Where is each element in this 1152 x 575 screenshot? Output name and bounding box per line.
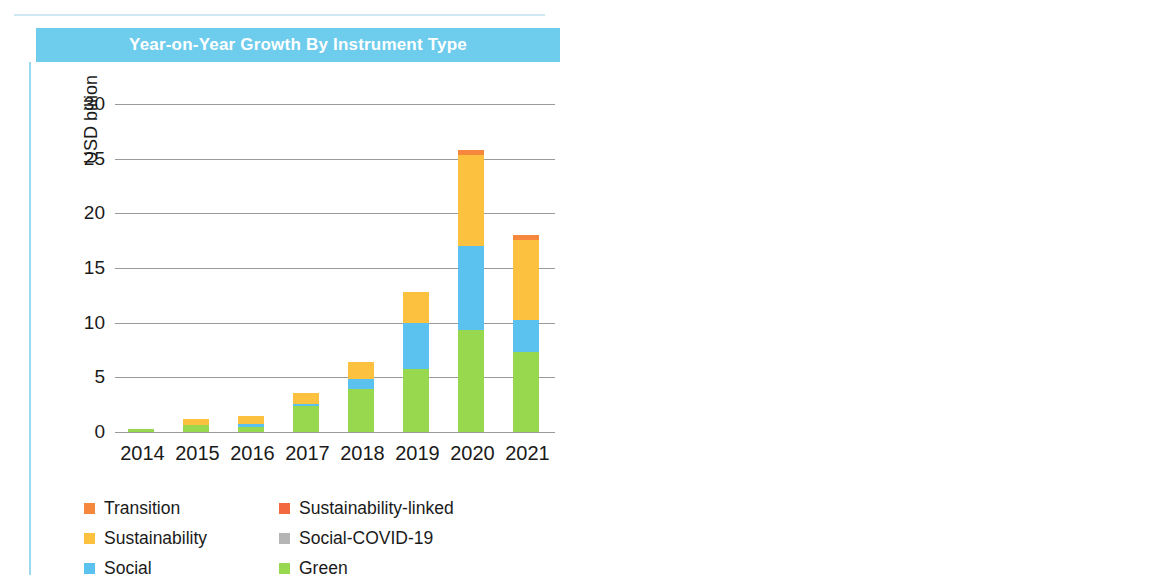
y-tick-label-10: 10 [45, 312, 105, 334]
bar-segment-2018-green [348, 389, 374, 432]
figure-root: Year-on-Year Growth By Instrument Type U… [0, 0, 1152, 575]
bar-group-2015 [170, 104, 225, 432]
bar-group-2017 [280, 104, 335, 432]
bar-legend-label: Transition [104, 498, 180, 519]
y-tick-label-15: 15 [45, 257, 105, 279]
legend-swatch-icon [279, 533, 290, 544]
bar-stack-2021[interactable] [513, 235, 539, 432]
bar-legend-item-social[interactable]: Social [84, 558, 279, 575]
pie-chart-panel: Currency AUD 1% EUR 15% USD 19% THB 0% J… [586, 14, 1152, 570]
bar-segment-2016-sustainability [238, 416, 264, 424]
x-tick-label-2014: 2014 [115, 442, 170, 465]
bar-segment-2019-green [403, 369, 429, 432]
bar-segment-2020-sustainability [458, 155, 484, 246]
legend-swatch-icon [279, 563, 290, 574]
bar-segment-2015-green [183, 425, 209, 432]
x-tick-label-2015: 2015 [170, 442, 225, 465]
x-tick-label-2021: 2021 [500, 442, 555, 465]
gridline-0 [115, 432, 555, 433]
bar-stack-2015[interactable] [183, 419, 209, 432]
bar-legend-label: Green [299, 558, 348, 575]
bar-group-2016 [225, 104, 280, 432]
x-tick-label-2017: 2017 [280, 442, 335, 465]
bar-stack-2014[interactable] [128, 429, 154, 432]
bar-segment-2019-social [403, 323, 429, 369]
bar-legend-label: Social-COVID-19 [299, 528, 433, 549]
bar-stack-2020[interactable] [458, 150, 484, 432]
bar-segment-2014-green [128, 429, 154, 432]
y-tick-label-5: 5 [45, 366, 105, 388]
bar-legend-item-green[interactable]: Green [279, 558, 554, 575]
x-tick-label-2018: 2018 [335, 442, 390, 465]
bar-legend-item-social-covid-19[interactable]: Social-COVID-19 [279, 528, 554, 549]
x-tick-label-2019: 2019 [390, 442, 445, 465]
bar-legend-item-sustainability-linked[interactable]: Sustainability-linked [279, 498, 554, 519]
bar-legend-label: Sustainability [104, 528, 207, 549]
bar-panel-left-rule [29, 62, 31, 575]
x-tick-label-2020: 2020 [445, 442, 500, 465]
bar-group-2019 [390, 104, 445, 432]
bar-stack-2016[interactable] [238, 416, 264, 432]
bar-plot-area: USD billion 051015202530 201420152016201… [115, 104, 555, 432]
bar-legend-label: Sustainability-linked [299, 498, 454, 519]
bar-chart-panel: Year-on-Year Growth By Instrument Type U… [14, 14, 560, 570]
bar-segment-2020-green [458, 330, 484, 432]
bar-segment-2021-social [513, 320, 539, 352]
bar-segment-2021-green [513, 352, 539, 432]
y-tick-label-30: 30 [45, 93, 105, 115]
bar-stack-2017[interactable] [293, 393, 319, 432]
bar-group-2014 [115, 104, 170, 432]
bar-legend-item-transition[interactable]: Transition [84, 498, 279, 519]
legend-swatch-icon [279, 503, 290, 514]
y-tick-label-0: 0 [45, 421, 105, 443]
bar-group-2020 [445, 104, 500, 432]
bar-segment-2017-sustainability [293, 393, 319, 404]
bar-segment-2016-green [238, 427, 264, 432]
bar-legend-label: Social [104, 558, 152, 575]
bar-segment-2020-social [458, 246, 484, 330]
bar-segment-2018-social [348, 379, 374, 389]
bar-legend-item-sustainability[interactable]: Sustainability [84, 528, 279, 549]
x-tick-label-2016: 2016 [225, 442, 280, 465]
bar-panel-top-rule [14, 14, 545, 16]
bar-segment-2019-sustainability [403, 292, 429, 323]
bar-segment-2017-green [293, 406, 319, 432]
legend-swatch-icon [84, 563, 95, 574]
bar-segment-2018-sustainability [348, 362, 374, 379]
bar-segment-2021-sustainability [513, 240, 539, 321]
bar-stack-2018[interactable] [348, 362, 374, 432]
y-tick-label-25: 25 [45, 148, 105, 170]
y-tick-label-20: 20 [45, 202, 105, 224]
bar-stack-2019[interactable] [403, 292, 429, 432]
bar-chart-title: Year-on-Year Growth By Instrument Type [36, 28, 560, 62]
legend-swatch-icon [84, 533, 95, 544]
bar-chart-legend: TransitionSustainability-linkedSustainab… [84, 498, 554, 575]
bar-group-2021 [500, 104, 555, 432]
bar-group-2018 [335, 104, 390, 432]
legend-swatch-icon [84, 503, 95, 514]
